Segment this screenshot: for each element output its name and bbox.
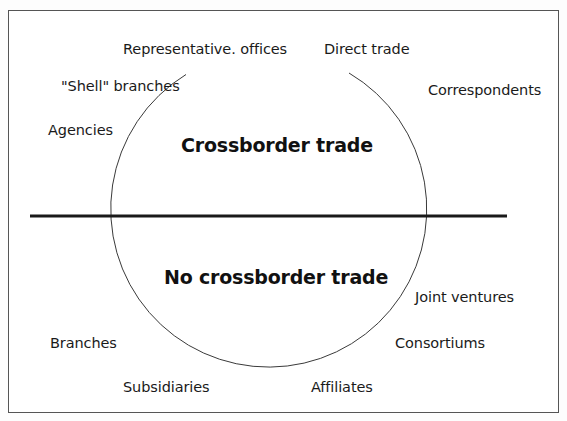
label-shell-branches: "Shell" branches	[61, 79, 180, 94]
diagram-shapes	[0, 0, 567, 421]
heading-crossborder-trade: Crossborder trade	[181, 136, 373, 155]
label-joint-ventures: Joint ventures	[415, 290, 514, 305]
label-representative-offices: Representative. offices	[123, 42, 287, 57]
diagram-canvas: Representative. offices Direct trade "Sh…	[0, 0, 567, 421]
label-branches: Branches	[50, 336, 117, 351]
label-consortiums: Consortiums	[395, 336, 485, 351]
heading-no-crossborder-trade: No crossborder trade	[164, 268, 388, 287]
label-affiliates: Affiliates	[311, 380, 373, 395]
classification-circle	[111, 73, 427, 367]
label-correspondents: Correspondents	[428, 83, 541, 98]
label-agencies: Agencies	[48, 123, 113, 138]
label-direct-trade: Direct trade	[324, 42, 409, 57]
label-subsidiaries: Subsidiaries	[123, 380, 210, 395]
